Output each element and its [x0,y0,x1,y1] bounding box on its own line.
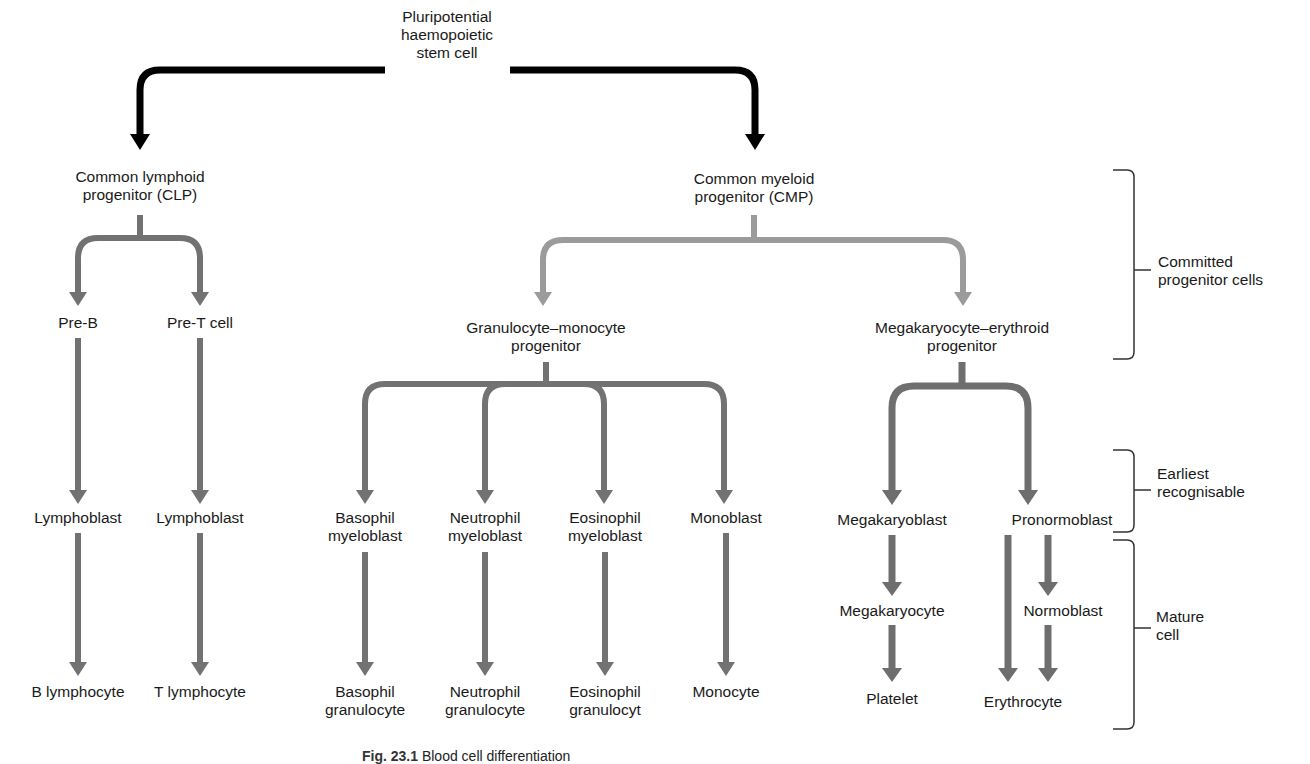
stage-mature-line1: Mature [1156,608,1204,626]
stage-earliest-line1: Earliest [1157,465,1245,483]
node-cmp-line1: Common myeloid [694,170,815,188]
gmp-branch [365,362,726,662]
node-cmp: Common myeloid progenitor (CMP) [694,170,815,206]
node-pronormoblast: Pronormoblast [1012,511,1113,529]
node-eosinophil-myeloblast: Eosinophil myeloblast [568,509,642,545]
node-b-lymphocyte: B lymphocyte [31,683,124,701]
node-lymphoblast-t: Lymphoblast [156,509,243,527]
caption-text: Blood cell differentiation [422,748,570,764]
node-t-lymphocyte: T lymphocyte [154,683,246,701]
node-megakaryocyte: Megakaryocyte [839,602,944,620]
node-megakaryoblast: Megakaryoblast [837,511,946,529]
bracket-mature [1113,540,1151,729]
node-gmp-line2: progenitor [466,337,625,355]
root-to-clp-arrow [140,70,385,135]
node-pronormoblast-label: Pronormoblast [1012,511,1113,528]
node-root-line3: stem cell [401,44,493,62]
node-megakaryoblast-label: Megakaryoblast [837,511,946,528]
node-root: Pluripotential haemopoietic stem cell [401,8,493,62]
bracket-earliest [1113,450,1151,532]
node-monoblast-label: Monoblast [690,509,762,526]
arrowhead-icon [130,134,150,150]
node-mep-line1: Megakaryocyte–erythroid [875,319,1049,337]
node-basophil-myeloblast-line2: myeloblast [328,527,402,545]
node-mep: Megakaryocyte–erythroid progenitor [875,319,1049,355]
figure-caption: Fig. 23.1 Blood cell differentiation [362,748,570,764]
node-pre-b: Pre-B [58,314,98,332]
node-eosinophil-granulocyte-line2: granulocyt [569,701,641,719]
node-eosinophil-myeloblast-line2: myeloblast [568,527,642,545]
node-cmp-line2: progenitor (CMP) [694,188,815,206]
node-basophil-granulocyte-line1: Basophil [325,683,405,701]
node-neutrophil-granulocyte: Neutrophil granulocyte [445,683,525,719]
node-lymphoblast-b: Lymphoblast [34,509,121,527]
node-pre-t-label: Pre-T cell [167,314,233,331]
node-monocyte: Monocyte [692,683,759,701]
caption-label: Fig. 23.1 [362,748,418,764]
stage-mature: Mature cell [1156,608,1204,644]
stage-committed-line1: Committed [1158,253,1263,271]
stage-earliest-line2: recognisable [1157,483,1245,501]
node-eosinophil-granulocyte-line1: Eosinophil [569,683,641,701]
node-neutrophil-myeloblast-line2: myeloblast [448,527,522,545]
node-neutrophil-myeloblast-line1: Neutrophil [448,509,522,527]
node-normoblast: Normoblast [1023,602,1102,620]
node-erythrocyte-label: Erythrocyte [984,693,1062,710]
node-erythrocyte: Erythrocyte [984,693,1062,711]
node-basophil-myeloblast: Basophil myeloblast [328,509,402,545]
node-eosinophil-myeloblast-line1: Eosinophil [568,509,642,527]
node-clp-line2: progenitor (CLP) [75,186,204,204]
node-normoblast-label: Normoblast [1023,602,1102,619]
cmp-branch [543,215,963,292]
node-gmp-line1: Granulocyte–monocyte [466,319,625,337]
node-basophil-myeloblast-line1: Basophil [328,509,402,527]
node-gmp: Granulocyte–monocyte progenitor [466,319,625,355]
node-monocyte-label: Monocyte [692,683,759,700]
node-clp-line1: Common lymphoid [75,168,204,186]
arrowhead-icon [745,134,765,150]
node-root-line2: haemopoietic [401,26,493,44]
node-basophil-granulocyte: Basophil granulocyte [325,683,405,719]
stage-mature-line2: cell [1156,626,1204,644]
node-clp: Common lymphoid progenitor (CLP) [75,168,204,204]
stage-earliest: Earliest recognisable [1157,465,1245,501]
node-lymphoblast-t-label: Lymphoblast [156,509,243,526]
stage-brackets [1113,170,1151,729]
node-lymphoblast-b-label: Lymphoblast [34,509,121,526]
stage-committed-line2: progenitor cells [1158,271,1263,289]
node-pre-t: Pre-T cell [167,314,233,332]
node-platelet-label: Platelet [866,690,918,707]
root-to-cmp-arrow [510,70,755,135]
node-platelet: Platelet [866,690,918,708]
node-neutrophil-granulocyte-line2: granulocyte [445,701,525,719]
node-mep-line2: progenitor [875,337,1049,355]
bracket-committed [1113,170,1151,359]
node-monoblast: Monoblast [690,509,762,527]
root-arrows [140,70,755,135]
node-basophil-granulocyte-line2: granulocyte [325,701,405,719]
node-b-lymphocyte-label: B lymphocyte [31,683,124,700]
node-neutrophil-myeloblast: Neutrophil myeloblast [448,509,522,545]
node-t-lymphocyte-label: T lymphocyte [154,683,246,700]
clp-branch [78,215,200,662]
node-pre-b-label: Pre-B [58,314,98,331]
node-eosinophil-granulocyte: Eosinophil granulocyt [569,683,641,719]
node-megakaryocyte-label: Megakaryocyte [839,602,944,619]
node-root-line1: Pluripotential [401,8,493,26]
node-neutrophil-granulocyte-line1: Neutrophil [445,683,525,701]
stage-committed: Committed progenitor cells [1158,253,1263,289]
